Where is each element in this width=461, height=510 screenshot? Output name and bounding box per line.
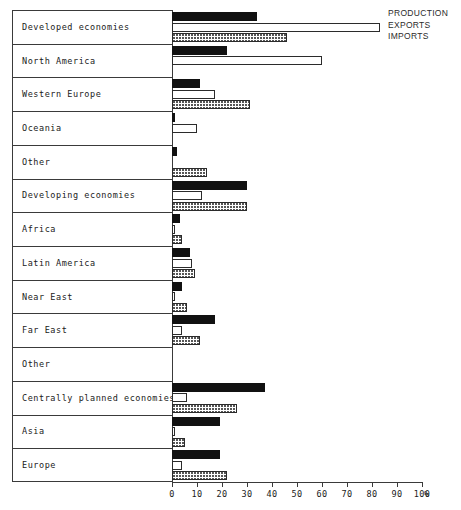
bar-exports-developing-economies — [172, 191, 202, 200]
row-separator — [12, 44, 172, 45]
legend-item-production: PRODUCTION — [388, 8, 448, 20]
bar-imports-far-east — [172, 336, 200, 345]
bar-production-developing-economies — [172, 181, 247, 190]
bar-production-asia — [172, 417, 220, 426]
row-separator — [12, 212, 172, 213]
bar-exports-developed-economies — [172, 23, 380, 32]
row-separator — [12, 145, 172, 146]
x-tick — [347, 482, 348, 487]
row-separator — [12, 179, 172, 180]
bar-imports-asia — [172, 438, 185, 447]
row-label-centrally-planned-economies: Centrally planned economies — [22, 393, 175, 403]
bar-production-north-america — [172, 46, 227, 55]
bar-exports-africa — [172, 225, 175, 234]
bar-production-europe — [172, 450, 220, 459]
row-separator — [12, 381, 172, 382]
row-separator — [12, 246, 172, 247]
x-tick — [372, 482, 373, 487]
row-label-near-east: Near East — [22, 292, 73, 302]
x-tick-label: 0 — [169, 489, 175, 499]
bar-exports-near-east — [172, 292, 175, 301]
bar-production-centrally-planned-economies — [172, 383, 265, 392]
row-separator — [12, 280, 172, 281]
x-tick — [272, 482, 273, 487]
bar-production-oceania — [172, 113, 175, 122]
legend-item-imports: IMPORTS — [388, 31, 448, 43]
bar-imports-near-east — [172, 303, 187, 312]
row-label-developed-economies: Developed economies — [22, 22, 130, 32]
x-tick-label: 40 — [266, 489, 277, 499]
row-label-north-america: North America — [22, 56, 96, 66]
x-tick — [247, 482, 248, 487]
bar-imports-europe — [172, 471, 227, 480]
row-label-western-europe: Western Europe — [22, 89, 101, 99]
row-label-asia: Asia — [22, 426, 45, 436]
row-label-africa: Africa — [22, 224, 56, 234]
legend: PRODUCTION EXPORTS IMPORTS — [388, 8, 448, 43]
bar-imports-latin-america — [172, 269, 195, 278]
x-tick-label: 50 — [291, 489, 302, 499]
bar-exports-latin-america — [172, 259, 192, 268]
x-tick — [397, 482, 398, 487]
bar-production-africa — [172, 214, 180, 223]
x-tick-label: 70 — [341, 489, 352, 499]
x-tick-label: 10 — [191, 489, 202, 499]
row-label-other: Other — [22, 359, 50, 369]
x-tick-label: 60 — [316, 489, 327, 499]
x-tick-label: 20 — [216, 489, 227, 499]
x-tick-label: 90 — [391, 489, 402, 499]
row-label-far-east: Far East — [22, 325, 67, 335]
row-separator — [12, 77, 172, 78]
x-axis-unit-label: % — [424, 489, 429, 499]
bar-imports-centrally-planned-economies — [172, 404, 237, 413]
bar-imports-other — [172, 168, 207, 177]
bar-imports-developed-economies — [172, 33, 287, 42]
row-label-oceania: Oceania — [22, 123, 62, 133]
row-label-europe: Europe — [22, 460, 56, 470]
x-tick — [172, 482, 173, 487]
x-tick — [422, 482, 423, 487]
x-tick-label: 30 — [241, 489, 252, 499]
bar-exports-europe — [172, 461, 182, 470]
row-label-other: Other — [22, 157, 50, 167]
bar-exports-western-europe — [172, 90, 215, 99]
bar-exports-north-america — [172, 56, 322, 65]
bar-exports-oceania — [172, 124, 197, 133]
bar-production-latin-america — [172, 248, 190, 257]
bar-exports-centrally-planned-economies — [172, 393, 187, 402]
x-tick — [322, 482, 323, 487]
row-separator — [12, 313, 172, 314]
x-tick — [297, 482, 298, 487]
row-separator — [12, 347, 172, 348]
x-tick — [222, 482, 223, 487]
row-separator — [12, 448, 172, 449]
bar-production-other — [172, 147, 177, 156]
x-tick — [197, 482, 198, 487]
row-label-latin-america: Latin America — [22, 258, 96, 268]
bar-imports-western-europe — [172, 100, 250, 109]
bar-production-western-europe — [172, 79, 200, 88]
bar-production-developed-economies — [172, 12, 257, 21]
x-tick-label: 80 — [366, 489, 377, 499]
legend-item-exports: EXPORTS — [388, 20, 448, 32]
row-label-developing-economies: Developing economies — [22, 190, 135, 200]
bar-production-far-east — [172, 315, 215, 324]
bar-imports-developing-economies — [172, 202, 247, 211]
bar-production-near-east — [172, 282, 182, 291]
row-separator — [12, 415, 172, 416]
bar-chart: Developed economiesNorth AmericaWestern … — [0, 0, 461, 510]
bar-exports-far-east — [172, 326, 182, 335]
row-separator — [12, 111, 172, 112]
bar-exports-asia — [172, 427, 175, 436]
bar-imports-africa — [172, 235, 182, 244]
